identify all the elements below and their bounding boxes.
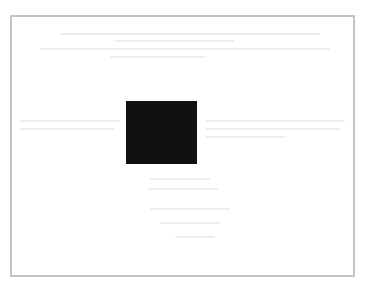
- redaction-block: [126, 101, 197, 164]
- bleed-through-line: [205, 136, 285, 138]
- bleed-through-line: [205, 128, 340, 130]
- bleed-through-line: [175, 236, 215, 238]
- bleed-through-line: [160, 222, 220, 224]
- bleed-through-line: [205, 120, 345, 122]
- bleed-through-line: [148, 188, 218, 190]
- bleed-through-line: [115, 40, 235, 42]
- bleed-through-line: [150, 208, 230, 210]
- bleed-through-line: [20, 128, 115, 130]
- bleed-through-line: [40, 48, 330, 50]
- bleed-through-line: [150, 178, 210, 180]
- bleed-through-line: [60, 33, 320, 35]
- bleed-through-line: [110, 56, 205, 58]
- bleed-through-line: [20, 120, 120, 122]
